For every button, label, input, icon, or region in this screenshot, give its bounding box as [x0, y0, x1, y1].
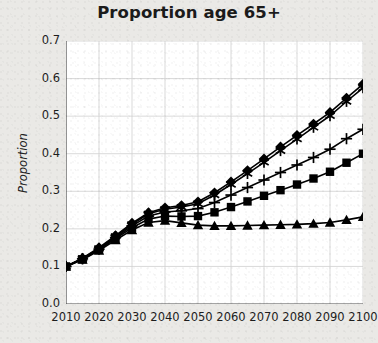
chart-root: Proportion age 65+ Proportion 0.00.10.20… — [0, 0, 378, 343]
y-tick-label: 0.0 — [26, 298, 60, 310]
y-tick-label: 0.5 — [26, 110, 60, 122]
x-tick-label: 2100 — [343, 312, 378, 324]
plot-area — [66, 41, 363, 304]
plot-svg — [66, 41, 363, 304]
gridlines — [66, 41, 363, 304]
x-axis-tick-labels: 2010202020302040205020602070208020902100 — [0, 312, 378, 332]
y-tick-label: 0.1 — [26, 260, 60, 272]
y-tick-label: 0.2 — [26, 223, 60, 235]
y-axis-tick-labels: 0.00.10.20.30.40.50.60.7 — [26, 0, 60, 343]
y-tick-label: 0.7 — [26, 35, 60, 47]
y-tick-label: 0.6 — [26, 73, 60, 85]
y-tick-label: 0.3 — [26, 185, 60, 197]
series-3-plus — [66, 124, 363, 272]
y-tick-label: 0.4 — [26, 148, 60, 160]
series-4-square — [66, 150, 363, 271]
